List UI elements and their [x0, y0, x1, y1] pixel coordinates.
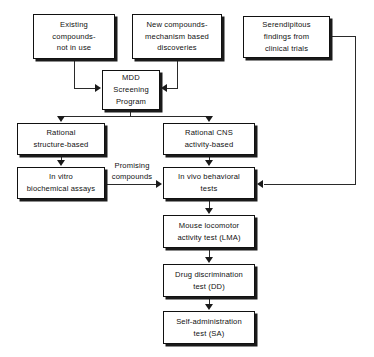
node-drug-discrimination-test-label: Drug discrimination test (DD) [173, 269, 245, 293]
arrowhead-dd-to-sa [205, 304, 213, 310]
connector-new-to-mdd-horizontal [167, 88, 178, 89]
node-mouse-locomotor-activity-test: Mouse locomotor activity test (LMA) [163, 215, 255, 248]
connector-existing-to-mdd-horizontal [74, 88, 96, 89]
node-rational-structure-based-label: Rational structure-based [31, 127, 90, 151]
node-mdd-screening-program-label: MDD Screening Program [111, 72, 151, 107]
node-self-administration-test: Self-administration test (SA) [163, 311, 255, 344]
node-new-compounds-label: New compounds- mechanism based discoveri… [143, 19, 211, 54]
connector-new-to-mdd-vertical [177, 59, 178, 88]
arrowhead-mdd-to-rational-structure [57, 116, 65, 122]
arrowhead-new-to-mdd [161, 84, 167, 92]
arrowhead-existing-to-mdd [95, 84, 101, 92]
connector-invitro-to-invivo-horizontal [106, 184, 157, 185]
node-in-vitro-biochemical-assays: In vitro biochemical assays [17, 167, 105, 199]
connector-mdd-bus-horizontal [61, 116, 209, 117]
node-self-administration-test-label: Self-administration test (SA) [174, 316, 244, 340]
connector-serendipitous-right [330, 36, 355, 37]
node-rational-cns-activity-based: Rational CNS activity-based [163, 123, 255, 155]
node-mouse-locomotor-activity-test-label: Mouse locomotor activity test (LMA) [175, 220, 242, 244]
node-in-vivo-behavioral-tests-label: In vivo behavioral tests [176, 171, 242, 195]
node-in-vitro-biochemical-assays-label: In vitro biochemical assays [25, 171, 98, 195]
node-new-compounds: New compounds- mechanism based discoveri… [132, 14, 222, 59]
arrowhead-serendipitous-to-invivo [257, 180, 263, 188]
node-rational-structure-based: Rational structure-based [17, 123, 105, 155]
connector-serendipitous-to-invivo-horizontal [264, 184, 356, 185]
node-in-vivo-behavioral-tests: In vivo behavioral tests [163, 167, 255, 199]
node-existing-compounds-label: Existing compounds- not in use [50, 19, 97, 54]
arrowhead-mdd-to-rational-cns [205, 116, 213, 122]
arrowhead-invivo-to-lma [205, 208, 213, 214]
arrowhead-lma-to-dd [205, 257, 213, 263]
edge-label-promising-compounds: Promising compounds [103, 160, 161, 183]
node-existing-compounds: Existing compounds- not in use [33, 14, 115, 59]
node-mdd-screening-program: MDD Screening Program [102, 70, 160, 110]
node-serendipitous-findings: Serendipitous findings from clinical tri… [243, 16, 330, 58]
node-rational-cns-activity-based-label: Rational CNS activity-based [183, 127, 236, 151]
node-drug-discrimination-test: Drug discrimination test (DD) [163, 264, 255, 297]
node-serendipitous-findings-label: Serendipitous findings from clinical tri… [260, 19, 312, 54]
arrowhead-rational-structure-to-invitro [57, 160, 65, 166]
flowchart-canvas: Existing compounds- not in use New compo… [0, 0, 374, 357]
connector-existing-to-mdd-vertical [74, 59, 75, 88]
connector-serendipitous-down [355, 36, 356, 184]
arrowhead-rational-cns-to-invivo [205, 160, 213, 166]
